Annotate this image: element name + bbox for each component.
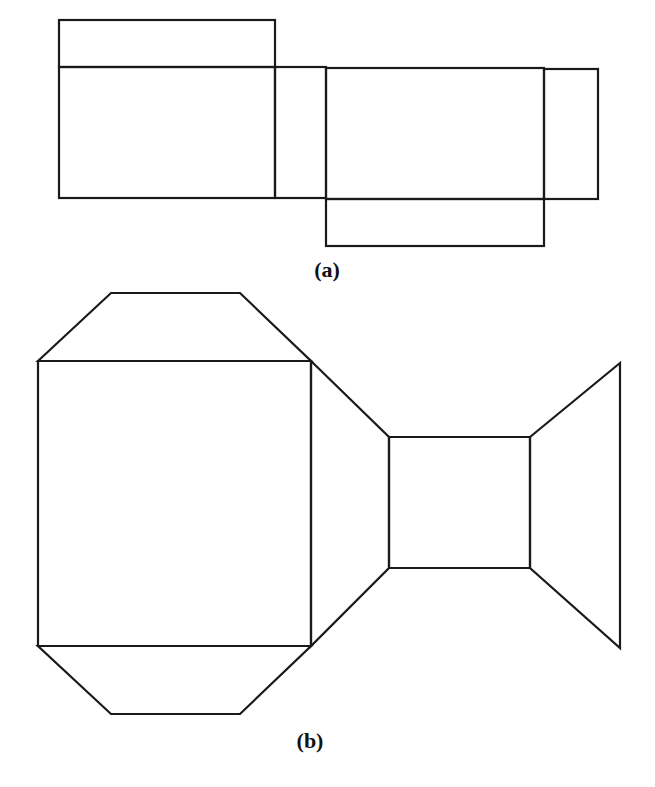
top-flap: [59, 20, 275, 67]
panel-b-perspective-net: [38, 293, 620, 714]
bottom-flap: [326, 199, 544, 246]
right-trapezoid: [530, 363, 620, 648]
left-face: [59, 67, 275, 198]
right-side-strip: [544, 69, 598, 199]
top-trapezoid: [38, 293, 311, 361]
diagram-canvas: [0, 0, 655, 787]
center-face: [326, 68, 544, 199]
small-square: [389, 437, 530, 568]
panel-a-box-net: [59, 20, 598, 246]
caption-a: (a): [314, 257, 340, 283]
large-square: [38, 361, 311, 646]
caption-b: (b): [297, 728, 324, 754]
connector-trapezoid: [311, 361, 389, 646]
bottom-trapezoid: [38, 646, 311, 714]
left-side-strip: [275, 67, 326, 198]
